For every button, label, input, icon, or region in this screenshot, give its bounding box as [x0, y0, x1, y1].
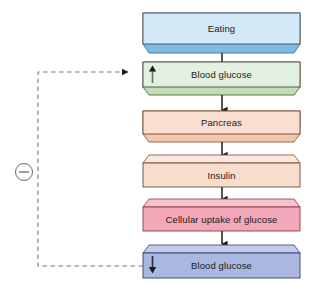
node-cellular-uptake-bevel	[143, 199, 300, 207]
node-cellular-uptake[interactable]	[143, 199, 300, 231]
node-blood-glucose-high[interactable]	[143, 62, 300, 95]
node-insulin-face	[143, 163, 300, 187]
node-pancreas-face	[143, 111, 300, 134]
feedback-loop-dashed-path	[38, 72, 143, 266]
node-cellular-uptake-face	[143, 207, 300, 231]
node-eating[interactable]	[143, 13, 300, 53]
node-blood-glucose-low-bevel	[143, 245, 300, 253]
node-eating-face	[143, 13, 300, 44]
flowchart-graphics	[0, 0, 312, 286]
diagram-canvas: Eating Blood glucose Pancreas Insulin Ce…	[0, 0, 312, 286]
node-insulin-bevel	[143, 155, 300, 163]
node-pancreas[interactable]	[143, 111, 300, 142]
node-blood-glucose-low[interactable]	[143, 245, 300, 278]
node-blood-glucose-low-face	[143, 253, 300, 278]
node-blood-glucose-high-face	[143, 62, 300, 87]
node-insulin[interactable]	[143, 155, 300, 187]
negative-sign-circle	[16, 164, 33, 181]
